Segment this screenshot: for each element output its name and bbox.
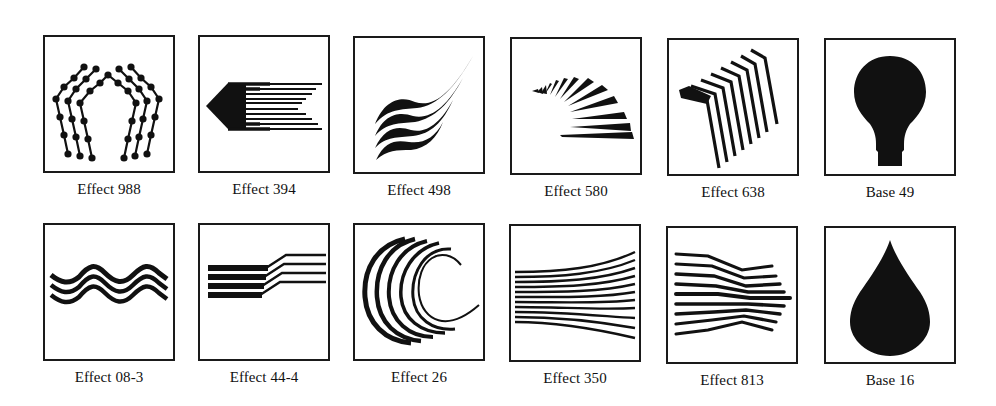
swatch-frame: [667, 38, 799, 176]
swatch-frame: [666, 226, 798, 364]
swatch-label: Effect 580: [490, 183, 662, 200]
swatch-frame: [353, 36, 485, 174]
swatch-label: Base 49: [804, 184, 976, 201]
swatch-label: Effect 498: [333, 182, 505, 199]
flowing-wave-strands-icon: [355, 38, 483, 172]
pinched-lines-icon: [668, 228, 796, 362]
swatch-label: Effect 394: [178, 181, 350, 198]
swatch-frame: [353, 223, 485, 361]
bent-staircase-lines-icon: [669, 40, 797, 174]
swatch-frame: [824, 226, 956, 364]
fanning-rays-icon: [512, 39, 640, 173]
swatch-label: Effect 08-3: [23, 369, 195, 386]
spreading-lines-icon: [511, 226, 639, 360]
swatch-label: Base 16: [804, 372, 976, 389]
swatch-frame: [198, 223, 330, 361]
swatch-label: Effect 813: [646, 372, 818, 389]
light-bulb-icon: [826, 40, 954, 174]
swatch-frame: [510, 37, 642, 175]
water-drop-icon: [826, 228, 954, 362]
swatch-frame: [824, 38, 956, 176]
stepped-bars-icon: [200, 225, 328, 359]
swatch-frame: [43, 223, 175, 361]
beaded-pentagon-arches-icon: [45, 37, 173, 171]
swatch-label: Effect 26: [333, 369, 505, 386]
swatch-frame: [198, 35, 330, 173]
triple-wave-icon: [45, 225, 173, 359]
swatch-label: Effect 44-4: [178, 369, 350, 386]
arrow-speed-lines-icon: [200, 37, 328, 171]
swatch-frame: [509, 224, 641, 362]
swatch-label: Effect 638: [647, 184, 819, 201]
swatch-label: Effect 988: [23, 181, 195, 198]
swatch-label: Effect 350: [489, 370, 661, 387]
swatch-frame: [43, 35, 175, 173]
concentric-arcs-icon: [355, 225, 483, 359]
